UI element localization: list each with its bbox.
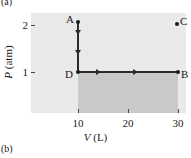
y-axis-variable: P (2, 72, 14, 79)
state-point-b-dot (176, 70, 180, 74)
x-axis-tick-label-20: 20 (118, 117, 138, 129)
figure-panel-a: (a) A D B C 10 20 30 1 2 V (L) P (atm) (… (0, 0, 191, 158)
state-point-a-label: A (66, 13, 74, 25)
panel-b-label: (b) (1, 143, 13, 154)
x-axis-tick-10 (78, 109, 79, 113)
y-axis-tick-1 (31, 72, 35, 73)
y-axis-tick-2 (31, 25, 35, 26)
process-line-d-to-b (77, 71, 178, 73)
y-axis-unit-spacer (2, 69, 14, 72)
panel-a-label: (a) (1, 0, 12, 7)
x-axis-tick-30 (178, 109, 179, 113)
arrow-down-icon (75, 50, 81, 55)
state-point-c-dot (175, 22, 179, 26)
arrow-down-icon (75, 30, 81, 35)
state-point-d-label: D (65, 68, 73, 80)
x-axis-tick-label-10: 10 (68, 117, 88, 129)
arrow-right-icon (133, 69, 138, 75)
y-axis-unit: (atm) (2, 45, 14, 69)
y-axis-tick-label-1: 1 (16, 66, 28, 78)
work-shaded-region (78, 72, 178, 113)
state-point-b-label: B (181, 68, 188, 80)
y-axis-tick-label-2: 2 (16, 19, 28, 31)
x-axis-unit: (L) (93, 131, 107, 143)
arrow-right-icon (96, 69, 101, 75)
pv-diagram-plot-area: A D B C (31, 13, 186, 113)
x-axis-tick-20 (128, 109, 129, 113)
state-point-d-dot (76, 70, 80, 74)
state-point-c-label: C (180, 15, 187, 27)
x-axis-title: V (L) (0, 131, 191, 143)
x-axis-tick-label-30: 30 (168, 117, 188, 129)
state-point-a-dot (76, 20, 80, 24)
y-axis-title: P (atm) (2, 34, 14, 90)
